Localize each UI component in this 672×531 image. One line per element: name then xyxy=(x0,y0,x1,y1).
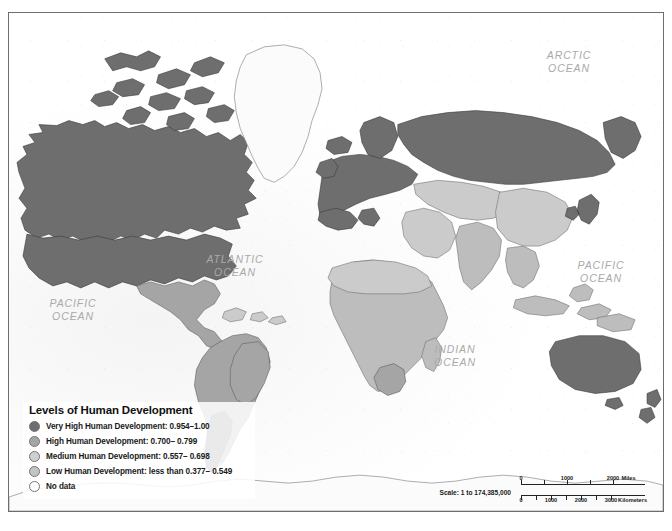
landmass-iceland xyxy=(326,137,352,155)
landmass-australia xyxy=(549,336,641,394)
scale-rule-miles xyxy=(521,484,645,485)
scale-tick-miles-0 xyxy=(521,480,522,484)
scale-km-tick-1000: 1000 xyxy=(545,497,557,503)
landmass-indonesia xyxy=(513,284,611,320)
landmass-new-zealand xyxy=(639,389,661,423)
legend-item-low[interactable]: Low Human Development: less than 0.377– … xyxy=(29,465,251,478)
legend: Levels of Human Development Very High Hu… xyxy=(23,402,255,499)
scale-rule-kilometers xyxy=(521,495,645,496)
landmass-southeast-asia xyxy=(505,246,539,288)
landmass-north-africa xyxy=(328,260,432,294)
scale-km-tick-3000: 3000 xyxy=(605,497,617,503)
scale-tick-miles-1500 xyxy=(590,480,591,484)
landmass-middle-east xyxy=(402,208,456,258)
scale-miles-unit: Miles xyxy=(622,475,636,481)
legend-item-high[interactable]: High Human Development: 0.700– 0.799 xyxy=(29,435,251,448)
scale-km-unit: Kilometers xyxy=(618,497,647,503)
scale-km-tick-0: 0 xyxy=(519,497,522,503)
legend-label-high: High Human Development: 0.700– 0.799 xyxy=(46,437,197,446)
legend-swatch-low xyxy=(29,466,40,477)
landmass-new-guinea xyxy=(597,314,635,332)
scale-miles-labels: 0 1000 2000 Miles xyxy=(517,475,649,483)
legend-swatch-medium xyxy=(29,451,40,462)
legend-title: Levels of Human Development xyxy=(29,404,251,416)
scale-kilometers-labels: 0 1000 2000 3000 Kilometers xyxy=(517,497,649,505)
map-page: .vhigh { fill: #6e6e6e; stroke: #3c3c3c;… xyxy=(0,0,672,531)
scale-tick-miles-1000 xyxy=(567,480,568,484)
scale-km-tick-2000: 2000 xyxy=(575,497,587,503)
landmass-russia xyxy=(398,111,615,185)
landmass-caribbean xyxy=(222,308,286,325)
landmass-iberia-italy-balkans xyxy=(318,208,380,230)
scale-tick-miles-500 xyxy=(544,480,545,484)
legend-label-very-high: Very High Human Development: 0.954–1.00 xyxy=(46,422,210,431)
scale-ratio-label: Scale: 1 to 174,385,000 xyxy=(440,489,511,505)
map-frame: .vhigh { fill: #6e6e6e; stroke: #3c3c3c;… xyxy=(8,12,664,512)
landmass-india xyxy=(456,222,502,290)
scale-bar: Scale: 1 to 174,385,000 0 1000 2000 Mile… xyxy=(440,475,649,505)
legend-item-very-high[interactable]: Very High Human Development: 0.954–1.00 xyxy=(29,420,251,433)
legend-label-medium: Medium Human Development: 0.557– 0.698 xyxy=(46,452,210,461)
landmass-tasmania xyxy=(605,397,623,409)
landmass-china xyxy=(496,188,574,246)
legend-label-low: Low Human Development: less than 0.377– … xyxy=(46,467,232,476)
legend-swatch-very-high xyxy=(29,421,40,432)
scale-bar-graphic: 0 1000 2000 Miles xyxy=(517,475,649,505)
legend-label-no-data: No data xyxy=(46,482,75,491)
scale-tick-miles-2000 xyxy=(613,480,614,484)
landmass-scandinavia xyxy=(360,117,398,159)
legend-swatch-high xyxy=(29,436,40,447)
landmass-mexico-central-america xyxy=(137,280,223,350)
legend-swatch-no-data xyxy=(29,481,40,492)
legend-item-no-data[interactable]: No data xyxy=(29,480,251,493)
legend-item-medium[interactable]: Medium Human Development: 0.557– 0.698 xyxy=(29,450,251,463)
landmass-canada xyxy=(17,121,256,243)
landmass-arctic-islands xyxy=(91,51,235,131)
